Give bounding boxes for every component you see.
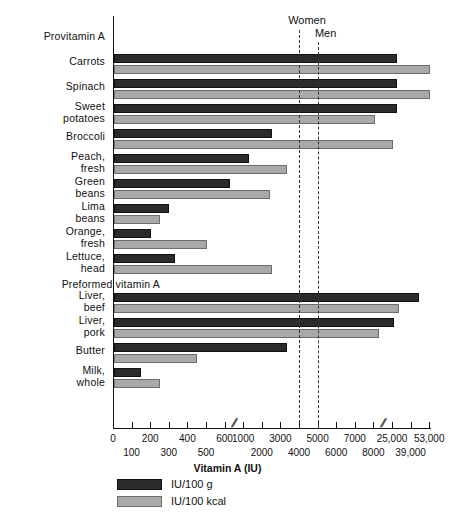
reference-label-women: Women <box>277 14 337 26</box>
category-label: fresh <box>0 162 105 174</box>
reference-line-women <box>299 30 300 428</box>
group-header-provitamin-a: Provitamin A <box>0 30 105 42</box>
bar-iu-per-100g <box>114 343 287 352</box>
category-label: potatoes <box>0 112 105 124</box>
bar-iu-per-100g <box>114 129 272 138</box>
bar-iu-per-100g <box>114 254 175 263</box>
reference-label-men: Men <box>296 27 356 39</box>
bar-iu-per-100kcal <box>114 65 430 74</box>
bar-iu-per-100g <box>114 79 397 88</box>
category-label: head <box>0 262 105 274</box>
category-label: whole <box>0 376 105 388</box>
x-axis-tick <box>280 422 281 428</box>
bar-iu-per-100kcal <box>114 215 161 224</box>
bar-iu-per-100kcal <box>114 240 207 249</box>
bar-iu-per-100g <box>114 368 142 377</box>
x-axis-line <box>113 428 431 429</box>
bar-iu-per-100g <box>114 293 420 302</box>
bar-iu-per-100kcal <box>114 90 430 99</box>
bar-iu-per-100g <box>114 318 394 327</box>
x-axis-tick <box>132 422 133 428</box>
x-tick-label-lower: 39,000 <box>387 447 435 458</box>
bar-iu-per-100kcal <box>114 115 375 124</box>
x-axis-tick <box>336 422 337 428</box>
category-label: beans <box>0 187 105 199</box>
reference-line-men <box>318 42 319 428</box>
bar-iu-per-100g <box>114 154 250 163</box>
x-axis-tick <box>187 422 188 428</box>
category-label: Liver, <box>0 314 105 326</box>
bar-iu-per-100kcal <box>114 165 287 174</box>
category-label: fresh <box>0 237 105 249</box>
category-label: Milk, <box>0 364 105 376</box>
category-label: Orange, <box>0 225 105 237</box>
bar-iu-per-100kcal <box>114 140 393 149</box>
bar-iu-per-100kcal <box>114 265 272 274</box>
x-axis-tick <box>113 422 114 428</box>
x-axis-tick <box>225 422 226 428</box>
bar-iu-per-100kcal <box>114 190 270 199</box>
legend-label-iu-per-100kcal: IU/100 kcal <box>171 495 226 507</box>
vitamin-a-bar-chart: ////0200400600100030005000700025,00053,0… <box>0 0 455 522</box>
x-axis-tick <box>355 422 356 428</box>
legend-swatch-iu-per-100g <box>117 479 162 490</box>
bar-iu-per-100g <box>114 54 397 63</box>
x-axis-tick <box>373 422 374 428</box>
x-axis-tick <box>243 422 244 428</box>
x-tick-label-lower: 500 <box>182 447 230 458</box>
bar-iu-per-100kcal <box>114 329 380 338</box>
legend-swatch-iu-per-100kcal <box>117 496 162 507</box>
x-tick-label-upper: 53,000 <box>405 433 453 444</box>
category-label: Green <box>0 175 105 187</box>
category-label: Lettuce, <box>0 250 105 262</box>
bar-iu-per-100g <box>114 204 170 213</box>
x-axis-tick <box>206 422 207 428</box>
category-label: Liver, <box>0 289 105 301</box>
category-label: Spinach <box>0 80 105 92</box>
category-label: beans <box>0 212 105 224</box>
x-axis-tick <box>262 422 263 428</box>
x-axis-tick <box>429 422 430 428</box>
x-axis-tick <box>411 422 412 428</box>
category-label: Broccoli <box>0 130 105 142</box>
category-label: Sweet <box>0 100 105 112</box>
bar-iu-per-100g <box>114 229 151 238</box>
bar-iu-per-100kcal <box>114 354 198 363</box>
x-axis-tick <box>392 422 393 428</box>
bar-iu-per-100kcal <box>114 304 400 313</box>
legend-label-iu-per-100g: IU/100 g <box>171 478 213 490</box>
bar-iu-per-100g <box>114 104 397 113</box>
x-axis-tick <box>150 422 151 428</box>
category-label: pork <box>0 326 105 338</box>
category-label: Butter <box>0 344 105 356</box>
category-label: Carrots <box>0 55 105 67</box>
category-label: Peach, <box>0 150 105 162</box>
bar-iu-per-100kcal <box>114 379 161 388</box>
category-label: Lima <box>0 200 105 212</box>
x-axis-title: Vitamin A (IU) <box>0 462 455 474</box>
category-label: beef <box>0 301 105 313</box>
bar-iu-per-100g <box>114 179 230 188</box>
x-axis-tick <box>169 422 170 428</box>
